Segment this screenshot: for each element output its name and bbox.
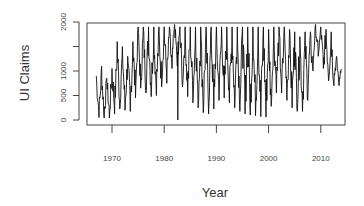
x-tick-label: 2010 — [312, 154, 330, 163]
y-tick-label: 1000 — [59, 62, 68, 80]
y-axis-label: UI Claims — [17, 45, 32, 101]
x-axis: 19701980199020002010 — [103, 125, 330, 163]
y-tick-label: 500 — [59, 88, 68, 102]
x-tick-label: 1980 — [155, 154, 173, 163]
line-chart: 050010002000 19701980199020002010 — [0, 0, 364, 206]
data-series-line — [96, 25, 341, 121]
x-tick-label: 1970 — [103, 154, 121, 163]
ui-claims-line — [96, 25, 341, 121]
x-tick-label: 1990 — [208, 154, 226, 163]
y-tick-label: 2000 — [59, 13, 68, 31]
y-axis: 050010002000 — [59, 13, 79, 123]
y-tick-label: 0 — [59, 117, 68, 122]
x-tick-label: 2000 — [260, 154, 278, 163]
x-axis-label: Year — [202, 185, 228, 200]
